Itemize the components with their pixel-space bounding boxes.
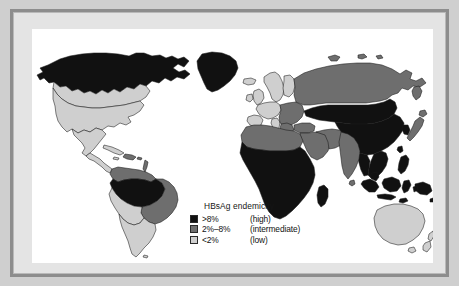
legend-range-low: <2% [202,235,250,245]
map-legend: HBsAg endemicity >8% (high) 2%–8% (inter… [190,201,340,245]
legend-label-intermediate: (intermediate) [250,224,300,234]
legend-item-intermediate: 2%–8% (intermediate) [190,224,340,235]
region-iceland [243,78,256,85]
region-fiji-pacific-islands [430,198,433,202]
legend-label-low: (low) [250,235,268,245]
world-map: HBsAg endemicity >8% (high) 2%–8% (inter… [32,29,433,263]
legend-range-high: >8% [202,214,250,224]
figure-frame: HBsAg endemicity >8% (high) 2%–8% (inter… [10,9,449,277]
region-turkey [294,123,315,133]
legend-title: HBsAg endemicity [204,201,340,211]
legend-range-intermediate: 2%–8% [202,224,250,234]
legend-swatch-low [190,236,198,244]
legend-swatch-intermediate [190,225,198,233]
legend-item-high: >8% (high) [190,214,340,225]
legend-swatch-high [190,215,198,223]
legend-label-high: (high) [250,214,271,224]
legend-item-low: <2% (low) [190,235,340,246]
